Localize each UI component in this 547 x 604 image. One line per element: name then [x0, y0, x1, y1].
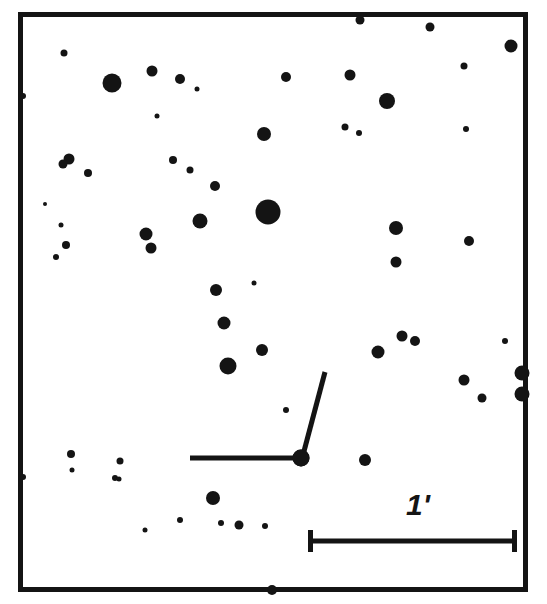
star-point — [505, 40, 518, 53]
star-point — [410, 336, 420, 346]
star-point — [206, 491, 220, 505]
star-point — [359, 454, 371, 466]
star-point — [43, 202, 47, 206]
scale-bar-label: 1' — [406, 488, 431, 521]
target-star — [293, 450, 310, 467]
star-point — [175, 74, 185, 84]
star-point — [356, 16, 365, 25]
chart-background — [0, 0, 547, 604]
star-point — [169, 156, 177, 164]
star-point — [187, 167, 194, 174]
star-point — [461, 63, 468, 70]
star-point — [70, 468, 75, 473]
star-point — [20, 474, 26, 480]
star-point — [372, 346, 385, 359]
star-point — [53, 254, 59, 260]
star-point — [67, 450, 75, 458]
star-point — [218, 317, 231, 330]
star-point — [463, 126, 469, 132]
star-point — [281, 72, 291, 82]
star-point — [515, 366, 530, 381]
star-point — [59, 223, 64, 228]
star-point — [379, 93, 395, 109]
star-point — [342, 124, 349, 131]
star-point — [262, 523, 268, 529]
star-point — [61, 50, 68, 57]
star-point — [515, 387, 530, 402]
star-point — [117, 458, 124, 465]
star-point — [220, 358, 237, 375]
star-point — [389, 221, 403, 235]
star-point — [283, 407, 289, 413]
star-point — [177, 517, 183, 523]
star-point — [426, 23, 435, 32]
star-point — [155, 114, 160, 119]
star-point — [252, 281, 257, 286]
star-point — [464, 236, 474, 246]
star-point — [84, 169, 92, 177]
star-point — [147, 66, 158, 77]
star-point — [117, 477, 122, 482]
star-point — [195, 87, 200, 92]
star-point — [502, 338, 508, 344]
star-point — [210, 181, 220, 191]
star-point — [345, 70, 356, 81]
star-point — [140, 228, 153, 241]
finder-chart: 1' — [0, 0, 547, 604]
chart-canvas: 1' — [0, 0, 547, 604]
star-point — [267, 585, 277, 595]
star-point — [103, 74, 122, 93]
star-point — [193, 214, 208, 229]
star-point — [391, 257, 402, 268]
star-point — [59, 160, 68, 169]
star-point — [62, 241, 70, 249]
star-point — [478, 394, 487, 403]
star-point — [210, 284, 222, 296]
star-point — [459, 375, 470, 386]
star-point — [235, 521, 244, 530]
star-point — [218, 520, 224, 526]
star-point — [397, 331, 408, 342]
star-point — [356, 130, 362, 136]
star-point — [20, 93, 26, 99]
star-point — [143, 528, 148, 533]
star-point — [256, 200, 281, 225]
star-point — [256, 344, 268, 356]
star-point — [146, 243, 157, 254]
star-point — [257, 127, 271, 141]
